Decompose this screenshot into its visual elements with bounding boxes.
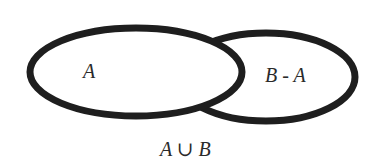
set-a-outline	[30, 28, 242, 116]
region-b-minus-a-label: B - A	[265, 65, 306, 85]
venn-diagram: A B - A A ∪ B	[0, 0, 384, 167]
region-a-label: A	[83, 61, 95, 81]
union-caption: A ∪ B	[160, 139, 211, 159]
